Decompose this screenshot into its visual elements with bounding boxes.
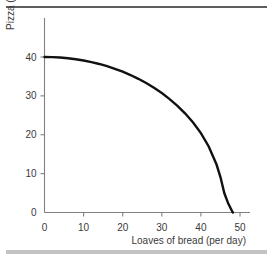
- x-tick-label: 30: [156, 222, 168, 233]
- y-axis-title: Pizza (per day): [5, 0, 16, 30]
- y-tick-label: 40: [25, 52, 37, 63]
- x-axis-ticks: [84, 213, 240, 217]
- x-axis-title: Loaves of bread (per day): [131, 235, 246, 246]
- y-tick-label: 30: [25, 90, 37, 101]
- plot-area: 010203040 01020304050 Loaves of bread (p…: [0, 0, 273, 263]
- y-tick-label: 20: [25, 129, 37, 140]
- y-tick-label: 10: [25, 168, 37, 179]
- x-tick-label: 10: [78, 222, 90, 233]
- x-tick-label: 40: [195, 222, 207, 233]
- y-axis-tick-labels: 010203040: [25, 52, 37, 219]
- ppf-curve-line: [45, 57, 233, 213]
- x-tick-label: 50: [234, 222, 246, 233]
- ppf-figure: 010203040 01020304050 Loaves of bread (p…: [0, 0, 273, 263]
- y-axis-ticks: [41, 57, 45, 174]
- x-tick-label: 20: [117, 222, 129, 233]
- x-tick-label: 0: [42, 222, 48, 233]
- y-tick-label: 0: [31, 207, 37, 218]
- x-axis-tick-labels: 01020304050: [42, 222, 246, 233]
